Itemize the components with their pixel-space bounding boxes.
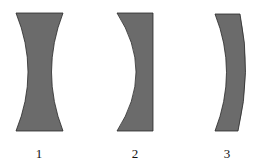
lens-3-meniscus bbox=[215, 14, 246, 131]
lens-3-label: 3 bbox=[224, 146, 231, 161]
lens-2-plano-concave bbox=[117, 13, 153, 131]
lens-2-label: 2 bbox=[132, 146, 139, 161]
lens-1-label: 1 bbox=[36, 146, 43, 161]
lens-1-biconcave bbox=[16, 13, 63, 131]
lens-diagram: 1 2 3 bbox=[0, 0, 258, 165]
